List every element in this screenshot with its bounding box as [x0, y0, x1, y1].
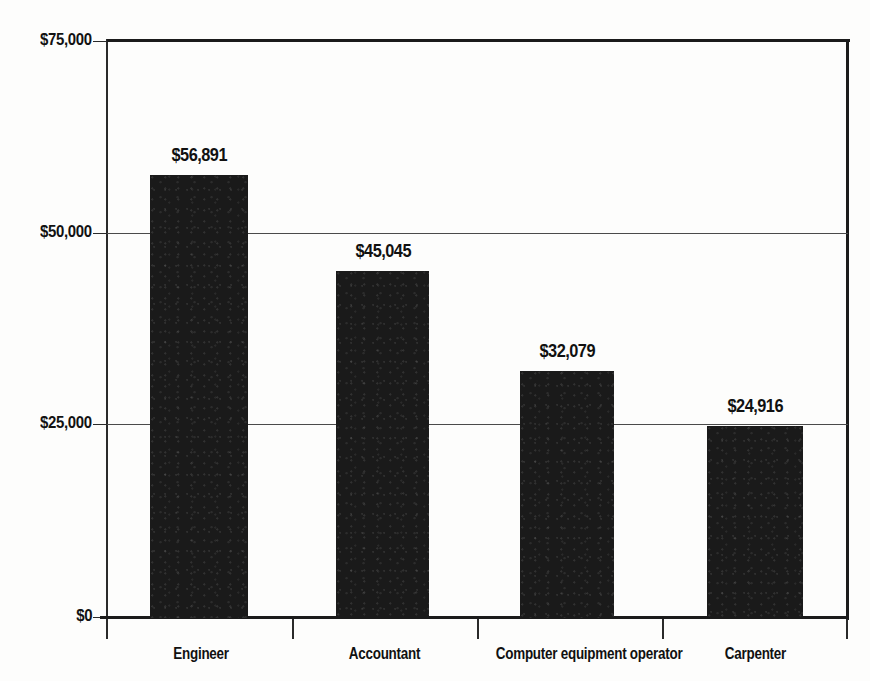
y-tick-label: $0: [76, 606, 92, 626]
x-tick-mark-2: [477, 619, 479, 639]
x-category-text: Carpenter: [724, 645, 785, 663]
bar-computer-equipment-operator[interactable]: [520, 371, 614, 618]
y-tick-mark-25000: [93, 424, 107, 425]
x-category-text: Engineer: [173, 645, 228, 663]
bar-carpenter[interactable]: [707, 426, 803, 618]
plot-right-border: [846, 39, 849, 620]
y-tick-mark-75000: [93, 41, 107, 42]
y-axis-line: [106, 39, 108, 637]
x-category-label-carpenter: Carpenter: [663, 645, 847, 663]
bar-value-text: $24,916: [727, 395, 782, 417]
x-tick-mark-0: [106, 619, 108, 639]
bar-value-accountant: $45,045: [314, 240, 452, 262]
bar-accountant[interactable]: [336, 271, 429, 618]
x-category-label-engineer: Engineer: [109, 645, 293, 663]
y-tick-mark-50000: [93, 233, 107, 234]
x-tick-mark-1: [292, 619, 294, 639]
x-category-text: Computer equipment operator: [496, 645, 683, 663]
y-tick-label: $25,000: [40, 413, 92, 433]
y-tick-label: $75,000: [40, 30, 92, 50]
bar-value-engineer: $56,891: [130, 144, 268, 166]
y-tick-label: $50,000: [40, 222, 92, 242]
x-category-label-computer-equipment-operator: Computer equipment operator: [478, 645, 662, 663]
x-category-text: Accountant: [349, 645, 420, 663]
x-tick-mark-3: [662, 619, 664, 639]
plot-top-border: [107, 39, 850, 42]
bar-value-text: $45,045: [355, 240, 410, 262]
bar-value-computer-equipment-operator: $32,079: [498, 340, 636, 362]
bar-engineer[interactable]: [150, 175, 248, 618]
x-category-label-accountant: Accountant: [293, 645, 477, 663]
bar-value-text: $32,079: [539, 340, 594, 362]
x-tick-mark-4: [846, 619, 848, 639]
bar-value-carpenter: $24,916: [686, 395, 824, 417]
bar-chart: $75,000 $50,000 $25,000 $0 $56,891 $45,0…: [0, 0, 870, 681]
bar-value-text: $56,891: [171, 144, 226, 166]
